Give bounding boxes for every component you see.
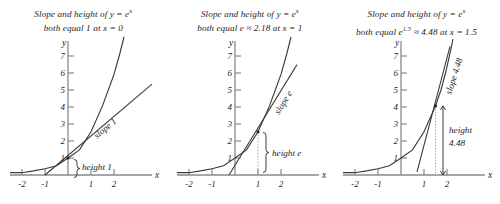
x-tick-label: 2 bbox=[112, 179, 117, 189]
y-tick-label: 5 bbox=[227, 86, 232, 96]
height-arrow bbox=[441, 106, 446, 175]
x-tick-label: -2 bbox=[185, 179, 193, 189]
plot-area: 1 2 3 4 5 6 7 -2 -1 1 2 y bbox=[333, 33, 500, 204]
x-tick-label: 1 bbox=[255, 179, 260, 189]
x-axis-label: x bbox=[154, 170, 160, 180]
exponential-slope-figure: Slope and height of y = ex both equal 1 … bbox=[0, 0, 500, 204]
y-tick-label: 6 bbox=[227, 69, 232, 79]
y-axis-label: y bbox=[61, 38, 67, 48]
y-tick-labels: 1 2 3 4 5 6 7 bbox=[59, 52, 65, 164]
panel-slope-at-x0: Slope and height of y = ex both equal 1 … bbox=[0, 0, 167, 204]
plot-area: 1 2 3 4 5 6 7 -2 -1 1 2 y bbox=[167, 33, 334, 204]
y-tick-marks bbox=[235, 56, 241, 158]
tangency-point bbox=[256, 130, 259, 133]
y-tick-label: 6 bbox=[60, 69, 65, 79]
x-tick-label: -1 bbox=[208, 179, 215, 189]
y-tick-labels: 1 2 3 4 5 6 7 bbox=[393, 52, 399, 164]
title-exponent: x bbox=[129, 7, 132, 14]
title-exponent: x bbox=[462, 7, 465, 14]
y-tick-label: 7 bbox=[227, 52, 232, 62]
x-tick-label: -2 bbox=[351, 179, 359, 189]
y-tick-label: 2 bbox=[227, 136, 232, 146]
title-line-1: Slope and height of y = ex bbox=[333, 4, 500, 22]
y-tick-label: 4 bbox=[394, 103, 399, 113]
x-tick-label: -1 bbox=[41, 179, 48, 189]
height-brace bbox=[263, 132, 269, 172]
tangency-point bbox=[434, 104, 437, 107]
y-tick-label: 2 bbox=[394, 136, 399, 146]
y-tick-label: 3 bbox=[59, 119, 65, 129]
y-tick-marks bbox=[401, 56, 407, 158]
panel-slope-at-x1: Slope and height of y = ex both equal e … bbox=[167, 0, 334, 204]
panel-title: Slope and height of y = ex both equal e … bbox=[167, 4, 334, 35]
title-line-1: Slope and height of y = ex bbox=[167, 4, 334, 22]
slope-label: slope e bbox=[272, 89, 294, 116]
x-tick-label: -1 bbox=[374, 179, 381, 189]
title-line-1: Slope and height of y = ex bbox=[0, 4, 167, 22]
x-tick-label: 2 bbox=[278, 179, 283, 189]
y-tick-marks bbox=[68, 56, 74, 158]
title-exponent: x bbox=[296, 7, 299, 14]
slope-label: slope 4.48 bbox=[444, 56, 465, 95]
y-tick-label: 4 bbox=[60, 103, 65, 113]
x-tick-label: 1 bbox=[422, 179, 427, 189]
x-axis-label: x bbox=[320, 170, 326, 180]
x-tick-labels: -2 -1 1 2 bbox=[18, 179, 116, 189]
y-tick-label: 6 bbox=[394, 69, 399, 79]
y-tick-label: 2 bbox=[60, 136, 65, 146]
height-label-line2: 4.48 bbox=[449, 138, 465, 148]
x-tick-label: 1 bbox=[89, 179, 94, 189]
y-tick-labels: 1 2 3 4 5 6 7 bbox=[226, 52, 232, 164]
y-tick-label: 7 bbox=[394, 52, 399, 62]
panel-slope-at-x15: Slope and height of y = ex both equal e1… bbox=[333, 0, 500, 204]
y-axis-label: y bbox=[394, 38, 400, 48]
y-tick-label: 3 bbox=[393, 119, 399, 129]
exponential-curve bbox=[10, 37, 124, 173]
y-tick-label: 5 bbox=[394, 86, 399, 96]
x-tick-label: 2 bbox=[445, 179, 450, 189]
y-tick-label: 3 bbox=[226, 119, 232, 129]
y-tick-label: 7 bbox=[60, 52, 65, 62]
y-tick-label: 5 bbox=[60, 86, 65, 96]
height-label-line1: height bbox=[449, 125, 472, 135]
y-tick-label: 4 bbox=[227, 103, 232, 113]
x-axis-label: x bbox=[487, 170, 493, 180]
plot-area: 1 2 3 4 5 6 7 -2 -1 1 2 bbox=[0, 33, 167, 204]
x-tick-label: -2 bbox=[18, 179, 26, 189]
x-tick-labels: -2 -1 1 2 bbox=[185, 179, 283, 189]
y-axis-label: y bbox=[228, 38, 234, 48]
panel-title: Slope and height of y = ex both equal 1 … bbox=[0, 4, 167, 35]
height-label: height e bbox=[272, 148, 301, 158]
height-label: height 1 bbox=[82, 162, 112, 172]
tangency-point bbox=[66, 156, 69, 159]
x-tick-labels: -2 -1 1 2 bbox=[351, 179, 449, 189]
title-exponent: 1.5 bbox=[403, 25, 412, 32]
